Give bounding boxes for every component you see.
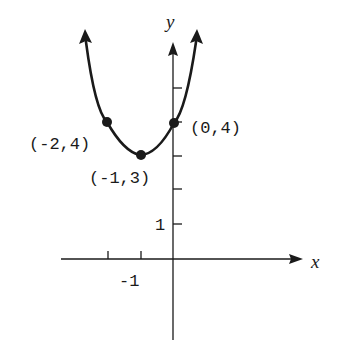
x-tick-label: -1 <box>119 272 139 291</box>
x-axis <box>61 251 303 264</box>
y-tick-label: 1 <box>155 216 165 235</box>
point-label-0-4: (0,4) <box>190 119 241 138</box>
point-vertex <box>136 150 146 160</box>
x-axis-label: x <box>310 251 320 272</box>
y-axis-arrow-icon <box>168 42 178 56</box>
point-label-vertex: (-1,3) <box>89 169 150 188</box>
x-axis-arrow-icon <box>289 254 303 264</box>
parabola-graph: y x -1 1 (-2,4) (-1,3) (0,4) <box>0 0 343 348</box>
y-axis-label: y <box>164 11 175 32</box>
point-neg2-4 <box>102 117 112 127</box>
point-label-neg2-4: (-2,4) <box>29 135 90 154</box>
point-0-4 <box>169 118 179 128</box>
y-axis <box>168 42 182 340</box>
parabola-curve <box>79 29 203 155</box>
